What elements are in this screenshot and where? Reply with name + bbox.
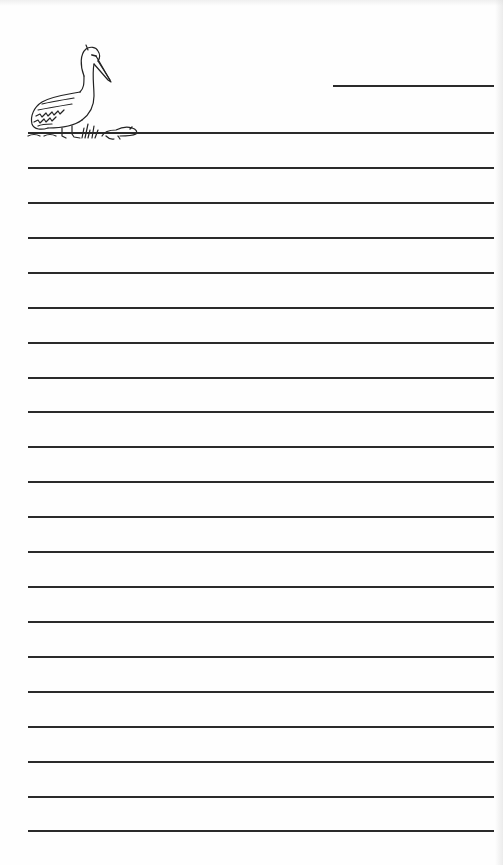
name-line [333, 85, 494, 87]
ruled-line-13 [28, 551, 494, 553]
ruled-line-19 [28, 761, 494, 763]
ruled-line-14 [28, 586, 494, 588]
ruled-line-1 [28, 132, 494, 134]
ruled-line-12 [28, 516, 494, 518]
top-edge-shadow [0, 0, 503, 6]
ruled-line-3 [28, 202, 494, 204]
ruled-line-16 [28, 656, 494, 658]
ruled-line-5 [28, 272, 494, 274]
pelican-icon [22, 44, 144, 140]
right-edge-shadow [495, 0, 503, 865]
ruled-line-6 [28, 307, 494, 309]
ruled-line-7 [28, 342, 494, 344]
ruled-line-15 [28, 621, 494, 623]
ruled-line-18 [28, 726, 494, 728]
ruled-line-11 [28, 481, 494, 483]
ruled-line-21 [28, 830, 494, 832]
ruled-line-20 [28, 796, 494, 798]
ruled-line-2 [28, 167, 494, 169]
ruled-line-17 [28, 691, 494, 693]
ruled-line-9 [28, 411, 494, 413]
ruled-line-8 [28, 377, 494, 379]
ruled-line-10 [28, 446, 494, 448]
lined-paper-page [0, 0, 503, 865]
ruled-line-4 [28, 237, 494, 239]
